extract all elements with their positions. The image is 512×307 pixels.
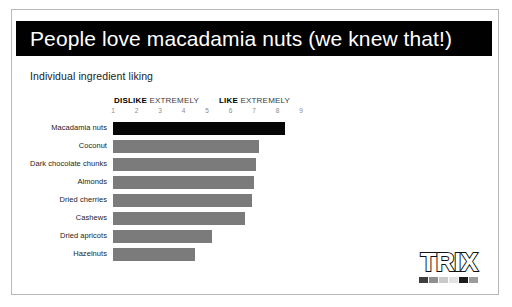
bar-row: Cashews xyxy=(113,210,301,228)
bar-category-label: Dried cherries xyxy=(60,195,107,204)
x-axis-tick: 6 xyxy=(224,107,238,114)
x-axis-tick: 4 xyxy=(177,107,191,114)
logo-swatch xyxy=(429,277,438,283)
bar xyxy=(113,158,256,171)
scale-label-like-bold: LIKE xyxy=(219,96,238,105)
bar-category-label: Dark chocolate chunks xyxy=(30,159,107,168)
trix-wordmark: TRIX xyxy=(416,248,482,276)
logo-swatch xyxy=(419,277,428,283)
x-axis-ticks: 123456789 xyxy=(113,107,301,118)
bar-row: Almonds xyxy=(113,174,301,192)
x-axis-tick: 8 xyxy=(271,107,285,114)
x-axis-tick: 9 xyxy=(294,107,308,114)
scale-label-dislike-bold: DISLIKE xyxy=(114,96,147,105)
bar xyxy=(113,230,212,243)
x-axis-tick: 1 xyxy=(106,107,120,114)
bar-row: Macadamia nuts xyxy=(113,120,301,138)
scale-label-like-rest: EXTREMELY xyxy=(238,96,290,105)
bar-row: Coconut xyxy=(113,138,301,156)
bar xyxy=(113,248,195,261)
scale-label-like: LIKE EXTREMELY xyxy=(219,96,290,105)
x-axis-tick: 5 xyxy=(200,107,214,114)
trix-logo-swatches xyxy=(419,277,478,283)
bar-category-label: Dried apricots xyxy=(60,231,107,240)
bar xyxy=(113,212,245,225)
bar xyxy=(113,194,252,207)
x-axis-tick: 3 xyxy=(153,107,167,114)
bar-category-label: Hazelnuts xyxy=(73,249,107,258)
bar xyxy=(113,140,259,153)
logo-swatch xyxy=(459,277,468,283)
x-axis-tick: 2 xyxy=(130,107,144,114)
scale-label-dislike-rest: EXTREMELY xyxy=(147,96,199,105)
bar-category-label: Coconut xyxy=(79,141,107,150)
plot-area: Macadamia nutsCoconutDark chocolate chun… xyxy=(113,120,301,264)
slide: People love macadamia nuts (we knew that… xyxy=(11,9,499,295)
bar-row: Hazelnuts xyxy=(113,246,301,264)
bar-category-label: Cashews xyxy=(76,213,107,222)
bar-row: Dried cherries xyxy=(113,192,301,210)
bar xyxy=(113,176,254,189)
x-axis-tick: 7 xyxy=(247,107,261,114)
logo-swatch xyxy=(439,277,448,283)
logo-swatch xyxy=(469,277,478,283)
bar-category-label: Macadamia nuts xyxy=(51,123,107,132)
trix-logo: TRIX xyxy=(416,248,482,288)
bar-category-label: Almonds xyxy=(77,177,107,186)
bar-row: Dark chocolate chunks xyxy=(113,156,301,174)
bar xyxy=(113,122,285,135)
scale-label-dislike: DISLIKE EXTREMELY xyxy=(114,96,199,105)
bar-row: Dried apricots xyxy=(113,228,301,246)
logo-swatch xyxy=(449,277,458,283)
